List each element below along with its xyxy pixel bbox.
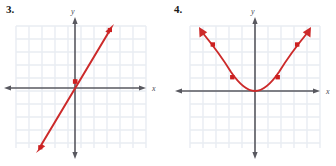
x-axis-label-3: x	[151, 84, 156, 93]
plot-point	[230, 75, 234, 79]
plot-point	[38, 145, 42, 149]
plot-point	[211, 42, 215, 46]
plot-point	[108, 28, 112, 32]
plot-point	[73, 79, 78, 84]
plot-point	[276, 75, 280, 79]
graph-4: x y	[168, 0, 336, 166]
graph-3-svg: x y	[0, 0, 168, 166]
graph-4-svg: x y	[168, 0, 336, 166]
grid-lines-3	[16, 26, 146, 148]
y-axis-label-3: y	[70, 7, 75, 16]
exercise-3-panel: 3.	[0, 0, 168, 166]
x-axis-label-4: x	[325, 87, 330, 96]
exercise-4-panel: 4.	[168, 0, 336, 166]
plot-point	[295, 42, 299, 46]
worksheet-page: 3.	[0, 0, 336, 166]
y-axis-label-4: y	[250, 7, 255, 16]
graph-3: x y	[0, 0, 168, 166]
